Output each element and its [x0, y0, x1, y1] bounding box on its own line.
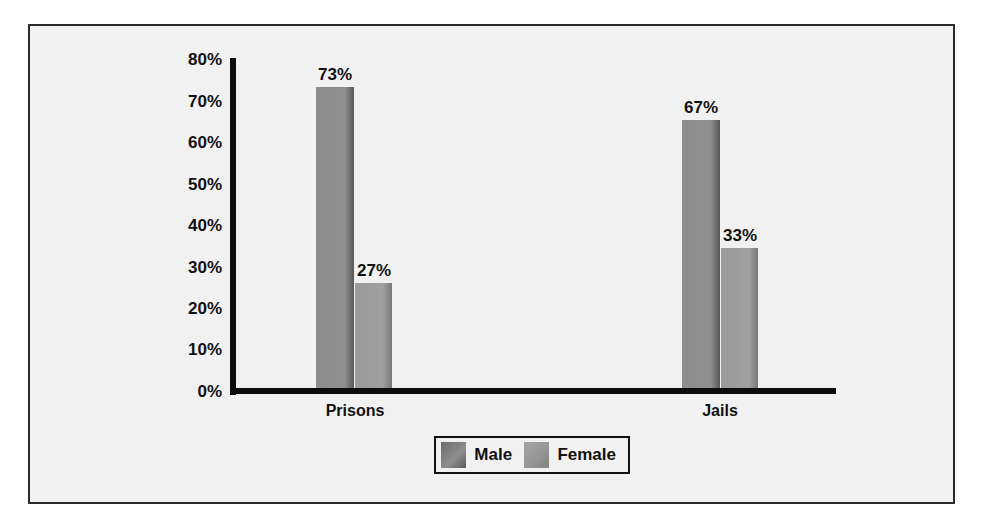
ytick-0: 0% — [162, 383, 222, 400]
ytick-50: 50% — [162, 176, 222, 193]
label-prisons-female: 27% — [344, 262, 404, 279]
bar-prisons-male — [316, 87, 354, 389]
legend: Male Female — [434, 436, 630, 474]
ytick-60: 60% — [162, 134, 222, 151]
label-jails-male: 67% — [671, 99, 731, 116]
label-jails-female: 33% — [710, 227, 770, 244]
category-prisons: Prisons — [305, 403, 405, 419]
bar-jails-female — [721, 248, 758, 389]
legend-swatch-female — [524, 442, 549, 468]
category-jails: Jails — [670, 403, 770, 419]
ytick-70: 70% — [162, 93, 222, 110]
legend-swatch-male — [441, 442, 466, 468]
legend-label-male: Male — [474, 445, 512, 465]
ytick-80: 80% — [162, 51, 222, 68]
bar-jails-male — [682, 120, 720, 389]
ytick-30: 30% — [162, 259, 222, 276]
x-axis — [230, 388, 836, 394]
ytick-20: 20% — [162, 300, 222, 317]
legend-label-female: Female — [557, 445, 616, 465]
ytick-10: 10% — [162, 341, 222, 358]
y-axis — [230, 58, 236, 395]
bar-prisons-female — [355, 283, 392, 389]
bar-chart: 80% 70% 60% 50% 40% 30% 20% 10% 0% 73% 2… — [0, 0, 981, 527]
ytick-40: 40% — [162, 217, 222, 234]
label-prisons-male: 73% — [305, 66, 365, 83]
